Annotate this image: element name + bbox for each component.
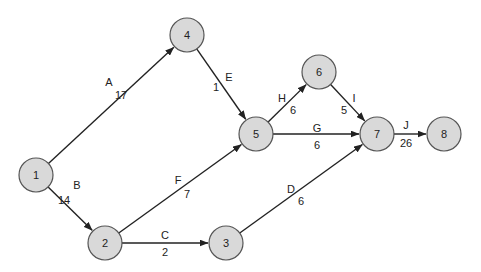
activity-label: C <box>161 229 169 241</box>
activity-label: G <box>313 122 322 134</box>
edge-d: D6 <box>240 145 363 234</box>
edge-b: B14 <box>48 179 92 230</box>
node-label: 7 <box>374 128 380 140</box>
arrow-line <box>331 84 365 120</box>
duration-label: 6 <box>298 195 304 207</box>
activity-label: I <box>352 92 355 104</box>
node-2: 2 <box>88 226 122 260</box>
network-diagram: A17B14C2D6E1F7G6H6I5J26 12345678 <box>0 0 481 272</box>
duration-label: 5 <box>341 104 347 116</box>
node-label: 8 <box>441 128 447 140</box>
edge-j: J26 <box>394 119 426 149</box>
arrow-line <box>268 85 306 122</box>
arrow-line <box>119 145 242 234</box>
activity-label: D <box>287 183 295 195</box>
edge-a: A17 <box>48 47 173 163</box>
edge-c: C2 <box>122 229 208 258</box>
edge-g: G6 <box>273 122 359 151</box>
activity-label: H <box>278 92 286 104</box>
edge-e: E1 <box>197 49 246 119</box>
node-label: 5 <box>253 128 259 140</box>
edge-i: I5 <box>331 84 365 120</box>
duration-label: 6 <box>314 139 320 151</box>
node-label: 6 <box>316 66 322 78</box>
activity-label: J <box>403 119 409 131</box>
node-label: 2 <box>102 237 108 249</box>
duration-label: 17 <box>115 89 127 101</box>
duration-label: 14 <box>58 194 70 206</box>
node-label: 3 <box>223 237 229 249</box>
duration-label: 1 <box>213 81 219 93</box>
node-label: 1 <box>33 169 39 181</box>
duration-label: 6 <box>290 104 296 116</box>
arrow-line <box>48 187 92 230</box>
arrow-line <box>48 47 173 163</box>
duration-label: 2 <box>162 246 168 258</box>
node-5: 5 <box>239 117 273 151</box>
node-7: 7 <box>360 117 394 151</box>
duration-label: 26 <box>400 137 412 149</box>
activity-label: F <box>175 174 182 186</box>
node-4: 4 <box>170 18 204 52</box>
activity-label: A <box>105 76 113 88</box>
duration-label: 7 <box>184 188 190 200</box>
edge-h: H6 <box>268 85 306 122</box>
edge-f: F7 <box>119 145 242 234</box>
node-3: 3 <box>209 226 243 260</box>
activity-label: E <box>225 71 232 83</box>
node-label: 4 <box>184 29 190 41</box>
node-8: 8 <box>427 117 461 151</box>
arrow-line <box>197 49 246 119</box>
activity-label: B <box>73 179 80 191</box>
node-1: 1 <box>19 158 53 192</box>
arrow-line <box>240 145 363 234</box>
node-6: 6 <box>302 55 336 89</box>
